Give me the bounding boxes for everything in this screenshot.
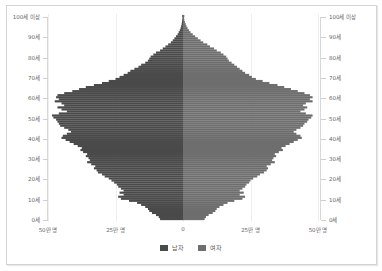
male-bar[interactable] bbox=[57, 94, 183, 96]
female-bar[interactable] bbox=[183, 167, 268, 169]
female-bar[interactable] bbox=[183, 192, 244, 194]
female-bar[interactable] bbox=[183, 27, 188, 29]
female-bar[interactable] bbox=[183, 208, 217, 210]
female-bar[interactable] bbox=[183, 181, 249, 183]
male-bar[interactable] bbox=[89, 157, 184, 159]
male-bar[interactable] bbox=[70, 141, 183, 143]
male-bar[interactable] bbox=[156, 52, 183, 54]
female-bar[interactable] bbox=[183, 204, 224, 206]
male-bar[interactable] bbox=[98, 171, 183, 173]
male-bar[interactable] bbox=[163, 47, 183, 49]
female-bar[interactable] bbox=[183, 188, 242, 190]
female-bar[interactable] bbox=[183, 47, 214, 49]
male-bar[interactable] bbox=[59, 112, 183, 114]
male-bar[interactable] bbox=[168, 43, 183, 45]
female-bar[interactable] bbox=[183, 214, 209, 216]
male-bar[interactable] bbox=[181, 25, 183, 27]
female-bar[interactable] bbox=[183, 218, 205, 220]
female-bar[interactable] bbox=[183, 149, 283, 151]
female-bar[interactable] bbox=[183, 86, 284, 88]
male-bar[interactable] bbox=[86, 155, 183, 157]
female-bar[interactable] bbox=[183, 54, 224, 56]
female-bar[interactable] bbox=[183, 49, 217, 51]
male-bar[interactable] bbox=[130, 70, 183, 72]
female-bar[interactable] bbox=[183, 161, 275, 163]
male-bar[interactable] bbox=[120, 192, 183, 194]
male-bar[interactable] bbox=[121, 198, 183, 200]
male-bar[interactable] bbox=[67, 133, 183, 135]
male-bar[interactable] bbox=[156, 214, 183, 216]
female-bar[interactable] bbox=[183, 137, 302, 139]
female-bar[interactable] bbox=[183, 60, 229, 62]
male-bar[interactable] bbox=[105, 175, 183, 177]
male-bar[interactable] bbox=[86, 86, 183, 88]
male-bar[interactable] bbox=[52, 114, 183, 116]
female-bar[interactable] bbox=[183, 198, 242, 200]
female-bar[interactable] bbox=[183, 82, 269, 84]
female-bar[interactable] bbox=[183, 17, 184, 19]
female-bar[interactable] bbox=[183, 200, 234, 202]
female-bar[interactable] bbox=[183, 74, 249, 76]
male-bar[interactable] bbox=[62, 108, 184, 110]
male-bar[interactable] bbox=[179, 31, 183, 33]
female-bar[interactable] bbox=[183, 143, 290, 145]
male-bar[interactable] bbox=[68, 129, 183, 131]
female-bar[interactable] bbox=[183, 185, 245, 187]
male-bar[interactable] bbox=[124, 74, 183, 76]
female-bar[interactable] bbox=[183, 179, 251, 181]
male-bar[interactable] bbox=[174, 37, 183, 39]
female-bar[interactable] bbox=[183, 104, 303, 106]
female-bar[interactable] bbox=[183, 206, 219, 208]
male-bar[interactable] bbox=[53, 116, 183, 118]
male-bar[interactable] bbox=[62, 102, 184, 104]
female-bar[interactable] bbox=[183, 210, 215, 212]
female-bar[interactable] bbox=[183, 37, 198, 39]
male-bar[interactable] bbox=[78, 145, 183, 147]
male-bar[interactable] bbox=[137, 202, 183, 204]
female-bar[interactable] bbox=[183, 169, 267, 171]
male-bar[interactable] bbox=[124, 194, 183, 196]
male-bar[interactable] bbox=[176, 35, 183, 37]
male-bar[interactable] bbox=[64, 92, 183, 94]
female-bar[interactable] bbox=[183, 194, 240, 196]
female-bar[interactable] bbox=[183, 147, 282, 149]
female-bar[interactable] bbox=[183, 127, 300, 129]
female-bar[interactable] bbox=[183, 25, 187, 27]
male-bar[interactable] bbox=[152, 212, 183, 214]
female-bar[interactable] bbox=[183, 88, 291, 90]
male-bar[interactable] bbox=[114, 181, 183, 183]
female-bar[interactable] bbox=[183, 133, 296, 135]
male-bar[interactable] bbox=[64, 127, 183, 129]
female-bar[interactable] bbox=[183, 98, 310, 100]
female-bar[interactable] bbox=[183, 33, 193, 35]
female-bar[interactable] bbox=[183, 41, 203, 43]
male-bar[interactable] bbox=[182, 23, 183, 25]
female-bar[interactable] bbox=[183, 35, 195, 37]
male-bar[interactable] bbox=[72, 90, 183, 92]
male-bar[interactable] bbox=[182, 21, 183, 23]
female-bar[interactable] bbox=[183, 121, 307, 123]
male-bar[interactable] bbox=[129, 200, 183, 202]
male-bar[interactable] bbox=[83, 151, 183, 153]
male-bar[interactable] bbox=[141, 204, 183, 206]
male-bar[interactable] bbox=[118, 196, 183, 198]
male-bar[interactable] bbox=[111, 179, 183, 181]
female-bar[interactable] bbox=[183, 183, 246, 185]
male-bar[interactable] bbox=[102, 82, 183, 84]
female-bar[interactable] bbox=[183, 155, 276, 157]
male-bar[interactable] bbox=[180, 29, 183, 31]
male-bar[interactable] bbox=[145, 206, 183, 208]
female-bar[interactable] bbox=[183, 78, 256, 80]
female-bar[interactable] bbox=[183, 39, 201, 41]
male-bar[interactable] bbox=[62, 137, 184, 139]
male-bar[interactable] bbox=[64, 104, 183, 106]
male-bar[interactable] bbox=[74, 143, 183, 145]
male-bar[interactable] bbox=[182, 15, 183, 17]
male-bar[interactable] bbox=[95, 165, 183, 167]
female-bar[interactable] bbox=[183, 31, 191, 33]
female-bar[interactable] bbox=[183, 145, 286, 147]
male-bar[interactable] bbox=[63, 135, 183, 137]
female-bar[interactable] bbox=[183, 119, 309, 121]
female-bar[interactable] bbox=[183, 23, 186, 25]
female-bar[interactable] bbox=[183, 84, 278, 86]
